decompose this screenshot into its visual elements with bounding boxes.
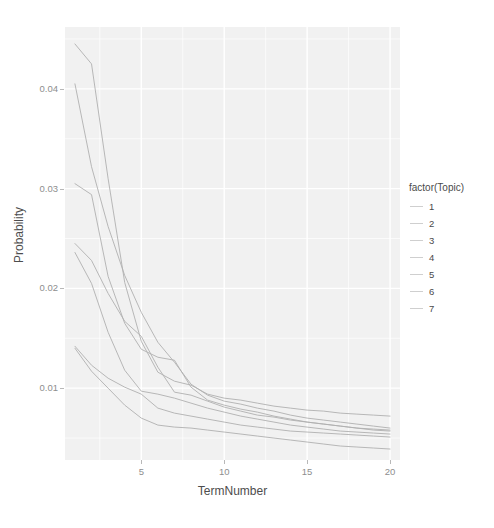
y-tick-mark — [60, 388, 64, 389]
y-tick-mark — [60, 288, 64, 289]
series-line — [75, 184, 390, 430]
legend-item-label: 3 — [429, 235, 434, 246]
legend-item-label: 5 — [429, 269, 434, 280]
x-tick-label: 20 — [377, 466, 403, 477]
legend-key-icon — [409, 235, 424, 246]
y-tick-mark — [60, 89, 64, 90]
x-tick-label: 15 — [294, 466, 320, 477]
legend-item-label: 2 — [429, 218, 434, 229]
y-tick-label: 0.03 — [24, 183, 58, 194]
x-tick-label: 5 — [128, 466, 154, 477]
series-line — [75, 84, 390, 428]
legend-key-icon — [409, 286, 424, 297]
x-tick-mark — [307, 460, 308, 464]
series-line — [75, 346, 390, 437]
legend-key-icon — [409, 201, 424, 212]
y-tick-mark — [60, 189, 64, 190]
legend-item-label: 4 — [429, 252, 434, 263]
legend-items: 1234567 — [409, 198, 489, 317]
x-axis-title: TermNumber — [65, 484, 400, 498]
legend-item[interactable]: 7 — [409, 300, 489, 317]
legend-item[interactable]: 3 — [409, 232, 489, 249]
legend-key-icon — [409, 303, 424, 314]
x-tick-label: 10 — [211, 466, 237, 477]
legend-item-label: 6 — [429, 286, 434, 297]
plot-panel — [65, 27, 400, 460]
legend-item-label: 1 — [429, 201, 434, 212]
legend-item[interactable]: 4 — [409, 249, 489, 266]
legend-item[interactable]: 1 — [409, 198, 489, 215]
plot-svg — [65, 27, 400, 460]
y-axis-title: Probability — [12, 175, 26, 295]
x-tick-mark — [390, 460, 391, 464]
chart-root: 0.010.020.030.04 5101520 TermNumber Prob… — [0, 0, 494, 528]
y-tick-label: 0.02 — [24, 282, 58, 293]
legend-key-icon — [409, 269, 424, 280]
y-tick-label: 0.04 — [24, 83, 58, 94]
series-line — [75, 44, 390, 416]
x-tick-mark — [224, 460, 225, 464]
legend-item[interactable]: 2 — [409, 215, 489, 232]
legend: factor(Topic) 1234567 — [409, 182, 489, 317]
legend-item[interactable]: 6 — [409, 283, 489, 300]
y-tick-label: 0.01 — [24, 382, 58, 393]
legend-title: factor(Topic) — [409, 182, 489, 193]
legend-item-label: 7 — [429, 303, 434, 314]
legend-item[interactable]: 5 — [409, 266, 489, 283]
legend-key-icon — [409, 218, 424, 229]
legend-key-icon — [409, 252, 424, 263]
x-tick-mark — [141, 460, 142, 464]
